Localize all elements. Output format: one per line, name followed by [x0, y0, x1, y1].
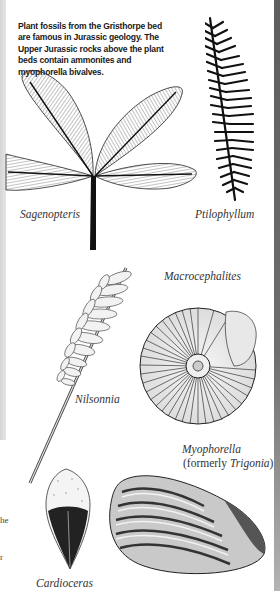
- macrocephalites-caption: Macrocephalites: [164, 270, 241, 282]
- ptilophyllum-caption: Ptilophyllum: [195, 208, 254, 220]
- nilsonnia-caption: Nilsonnia: [75, 393, 120, 405]
- formerly-trigonia-caption: (formerly Trigonia): [183, 457, 273, 469]
- myophorella-illustration: [104, 470, 274, 580]
- nilsonnia-illustration: [18, 258, 138, 488]
- sagenopteris-caption: Sagenopteris: [20, 208, 80, 220]
- cardioceras-caption: Cardioceras: [36, 577, 93, 589]
- formerly-suffix: ): [270, 457, 274, 469]
- ptilophyllum-illustration: [205, 14, 265, 204]
- formerly-prefix: (formerly: [183, 457, 230, 469]
- cardioceras-illustration: [38, 465, 98, 575]
- sagenopteris-illustration: [0, 62, 205, 252]
- cut-off-text-fragment: he: [0, 515, 9, 525]
- cut-off-text-fragment: r: [0, 552, 3, 562]
- macrocephalites-illustration: [134, 290, 264, 430]
- page-edge-border: [274, 0, 280, 591]
- myophorella-caption: Myophorella: [182, 443, 241, 455]
- trigonia-name: Trigonia: [230, 457, 270, 469]
